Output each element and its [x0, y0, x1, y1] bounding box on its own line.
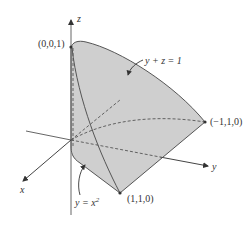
plane-equation-label: y + z = 1: [145, 56, 182, 66]
z-axis-label: z: [77, 14, 81, 24]
x-axis-back: [26, 131, 71, 140]
point-neg1-1-0: [203, 120, 206, 123]
surface-region: [71, 41, 205, 193]
point-0-0-1: [69, 45, 72, 48]
point-label-1-1-0: (1,1,0): [127, 194, 154, 204]
point-label-neg1-1-0: (−1,1,0): [210, 117, 242, 127]
x-axis-label: x: [20, 185, 24, 195]
solid-region-diagram: z x y (0,0,1) (−1,1,0) (1,1,0) y + z = 1…: [0, 0, 252, 232]
cylinder-equation-label: y = x2: [75, 197, 99, 208]
y-axis: [160, 157, 208, 166]
x-axis: [23, 140, 71, 181]
y-axis-label: y: [212, 162, 216, 172]
point-1-1-0: [118, 191, 121, 194]
point-label-0-0-1: (0,0,1): [38, 39, 65, 49]
